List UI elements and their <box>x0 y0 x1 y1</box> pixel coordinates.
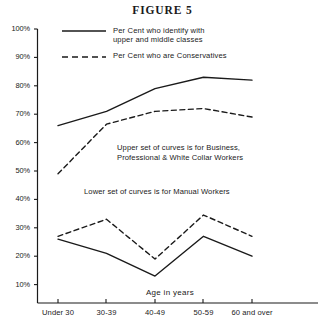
y-tick-label: 80% <box>0 81 30 90</box>
series-line-1 <box>58 109 252 174</box>
y-tick-label: 100% <box>0 24 30 33</box>
y-tick-label: 90% <box>0 52 30 61</box>
series-line-3 <box>58 215 252 259</box>
y-tick-label: 70% <box>0 109 30 118</box>
y-tick-label: 40% <box>0 194 30 203</box>
annotation-upper-curves: Upper set of curves is for Business, Pro… <box>117 143 243 162</box>
x-axis-title: Age in years <box>110 288 230 297</box>
legend-item-solid-label: Per Cent who identify with upper and mid… <box>113 26 205 45</box>
y-tick-label: 30% <box>0 223 30 232</box>
series-line-0 <box>58 77 252 125</box>
legend-item-dashed-label: Per Cent who are Conservatives <box>113 51 227 60</box>
x-tick-label: 60 and over <box>214 308 290 317</box>
y-tick-label: 20% <box>0 251 30 260</box>
y-tick-label: 10% <box>0 280 30 289</box>
annotation-lower-curves: Lower set of curves is for Manual Worker… <box>84 187 230 197</box>
chart-plot-area <box>0 0 325 331</box>
y-tick-label: 60% <box>0 138 30 147</box>
y-tick-label: 50% <box>0 166 30 175</box>
series-line-2 <box>58 236 252 276</box>
series-layer <box>58 77 252 276</box>
